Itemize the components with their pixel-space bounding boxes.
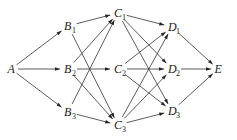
edge-c3-d2: [124, 75, 166, 119]
nodes: AB1B2B3C1C2C3D1D2D3E: [7, 6, 223, 134]
edge-b3-c3: [77, 114, 111, 123]
edge-c1-d3: [122, 21, 168, 104]
node-subscript: 3: [72, 112, 76, 121]
edge-c3-d3: [127, 113, 165, 123]
node-label: B: [64, 19, 72, 33]
edge-c1-d2: [124, 20, 166, 64]
node-subscript: 3: [122, 125, 126, 134]
node-subscript: 1: [176, 27, 180, 36]
node-subscript: 3: [176, 111, 180, 120]
node-d3: D3: [167, 104, 180, 120]
graph-diagram: AB1B2B3C1C2C3D1D2D3E: [0, 0, 237, 140]
node-subscript: 2: [176, 69, 180, 78]
edge-b1-c1: [77, 15, 111, 24]
node-label: B: [64, 62, 72, 76]
node-d2: D2: [167, 62, 180, 78]
node-b1: B1: [64, 19, 76, 35]
node-d1: D1: [167, 20, 180, 36]
node-label: E: [214, 62, 223, 76]
node-a: A: [7, 62, 16, 76]
edge-b2-c3: [74, 76, 113, 119]
node-subscript: 1: [72, 26, 76, 35]
edge-a-b3: [17, 73, 62, 107]
edge-d1-e: [179, 33, 213, 64]
node-c2: C2: [114, 62, 126, 78]
edge-b1-c3: [72, 34, 114, 118]
node-subscript: 2: [122, 69, 126, 78]
node-c1: C1: [114, 6, 126, 22]
edge-b2-c1: [74, 19, 113, 62]
node-c3: C3: [114, 118, 126, 134]
node-e: E: [214, 62, 223, 76]
node-subscript: 1: [122, 13, 126, 22]
node-label: B: [64, 105, 72, 119]
node-subscript: 2: [72, 69, 76, 78]
node-b2: B2: [64, 62, 76, 78]
edge-c1-d1: [127, 15, 165, 25]
node-b3: B3: [64, 105, 76, 121]
edge-b3-c1: [72, 20, 114, 104]
edge-d3-e: [179, 74, 213, 105]
edge-c3-d1: [122, 34, 168, 117]
node-label: A: [7, 62, 16, 76]
edge-a-b1: [17, 31, 62, 65]
